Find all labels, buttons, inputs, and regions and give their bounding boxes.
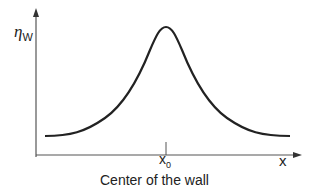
- bell-curve: [45, 27, 290, 136]
- x-axis-arrow-icon: [293, 152, 302, 158]
- x-axis-label: x: [279, 152, 287, 169]
- caption: Center of the wall: [100, 172, 209, 188]
- diagram-canvas: [0, 0, 315, 194]
- y-axis-label: ηW: [14, 22, 33, 43]
- y-axis-arrow-icon: [33, 8, 39, 17]
- x0-label: x0: [159, 151, 171, 170]
